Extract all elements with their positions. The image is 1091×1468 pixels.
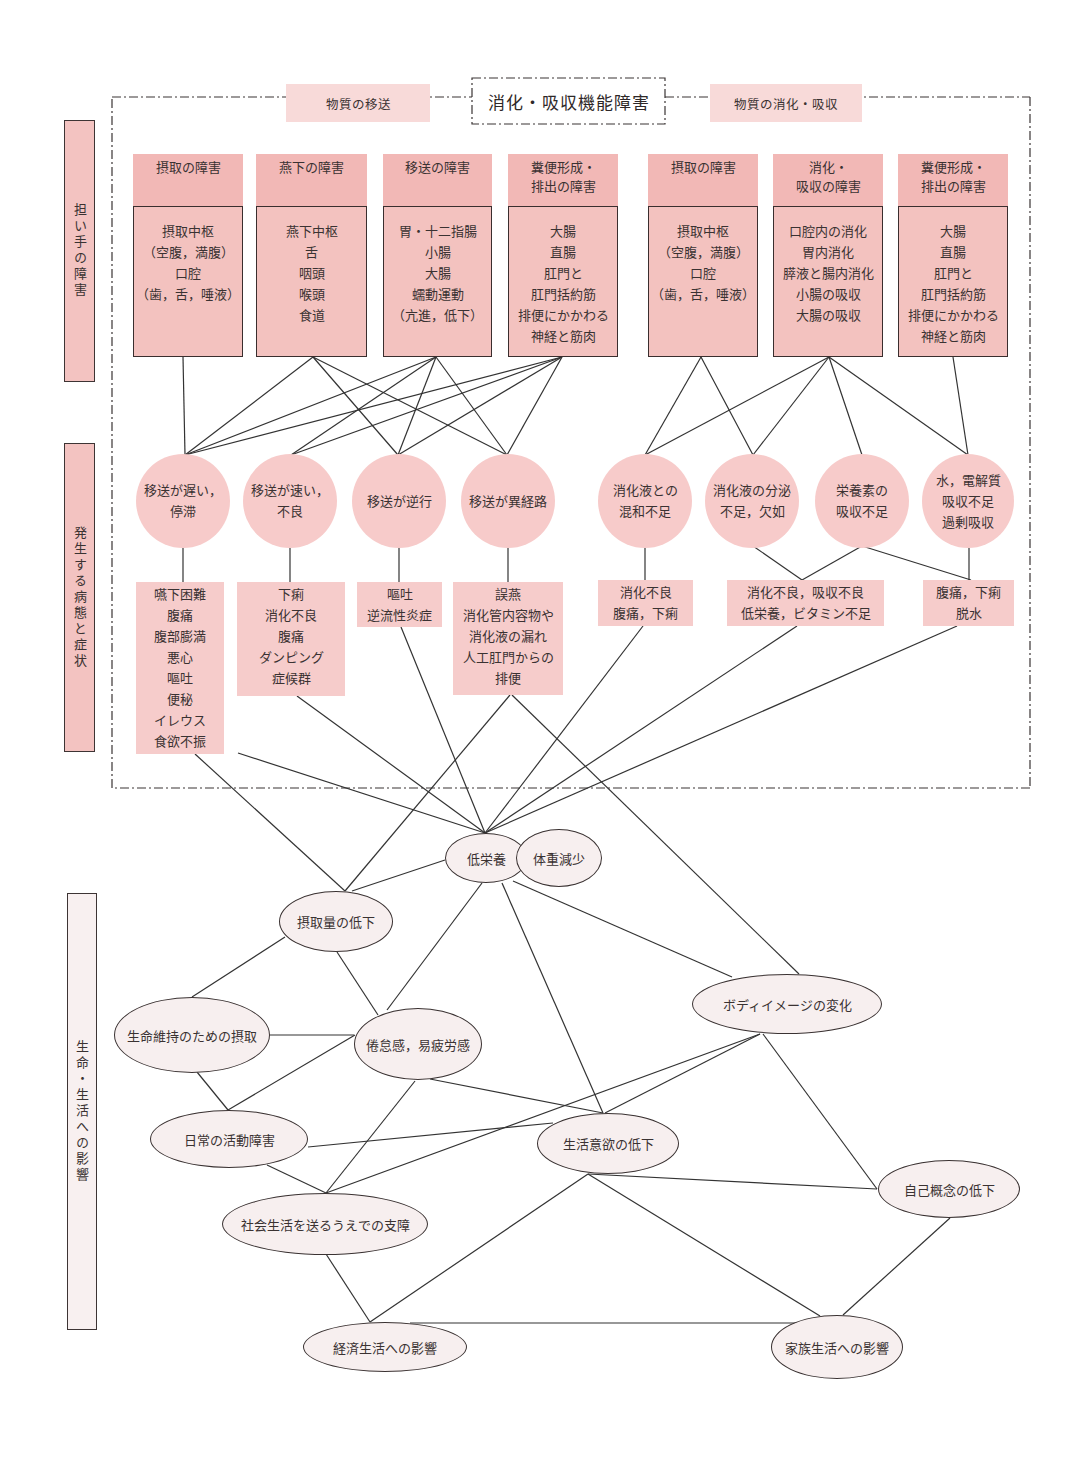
pathology-to-symptom-lines bbox=[183, 546, 971, 582]
pathology-circle: 栄養素の 吸収不足 bbox=[815, 454, 909, 548]
side-label-carriers: 担い手の障害 bbox=[64, 120, 95, 382]
pathology-circle: 移送が逆行 bbox=[352, 454, 446, 548]
symptom-box: 嘔吐 逆流性炎症 bbox=[357, 582, 442, 627]
carrier-body: 摂取中枢 （空腹，満腹） 口腔 （歯，舌，唾液） bbox=[648, 206, 758, 357]
carrier-to-pathology-lines bbox=[183, 357, 968, 455]
effect-economic-life: 経済生活への影響 bbox=[303, 1322, 467, 1372]
effect-daily-activity: 日常の活動障害 bbox=[150, 1110, 308, 1168]
effect-weight-loss: 体重減少 bbox=[516, 829, 602, 887]
pathology-circle: 移送が異経路 bbox=[461, 454, 555, 548]
side-label-text: 担い手の障害 bbox=[70, 203, 89, 299]
side-label-text: 発生する病態と症状 bbox=[70, 526, 89, 670]
carrier-header: 移送の障害 bbox=[383, 154, 492, 206]
effect-family-life: 家族生活への影響 bbox=[771, 1315, 903, 1379]
group-label-transport: 物質の移送 bbox=[286, 84, 430, 122]
symptom-box: 腹痛，下痢 脱水 bbox=[923, 580, 1014, 626]
effect-self-concept: 自己概念の低下 bbox=[878, 1160, 1020, 1218]
symptom-box: 嚥下困難 腹痛 腹部膨満 悪心 嘔吐 便秘 イレウス 食欲不振 bbox=[136, 582, 224, 754]
pathology-circle: 消化液との 混和不足 bbox=[598, 454, 692, 548]
carrier-header: 摂取の障害 bbox=[133, 154, 243, 206]
side-label-life-impact: 生命・生活への影響 bbox=[67, 893, 97, 1330]
carrier-header: 糞便形成・ 排出の障害 bbox=[898, 154, 1008, 206]
carrier-body: 口腔内の消化 胃内消化 膵液と腸内消化 小腸の吸収 大腸の吸収 bbox=[773, 206, 883, 357]
side-label-pathology: 発生する病態と症状 bbox=[64, 443, 95, 752]
pathology-circle: 移送が速い， 不良 bbox=[243, 454, 337, 548]
carrier-body: 摂取中枢 （空腹，満腹） 口腔 （歯，舌，唾液） bbox=[133, 206, 243, 357]
carrier-header: 燕下の障害 bbox=[256, 154, 367, 206]
symptom-box: 消化不良，吸収不良 低栄養，ビタミン不足 bbox=[727, 580, 884, 626]
effect-social-life: 社会生活を送るうえでの支障 bbox=[222, 1193, 428, 1255]
carrier-body: 大腸 直腸 肛門と 肛門括約筋 排便にかかわる 神経と筋肉 bbox=[508, 206, 618, 357]
carrier-body: 大腸 直腸 肛門と 肛門括約筋 排便にかかわる 神経と筋肉 bbox=[898, 206, 1008, 357]
symptom-box: 消化不良 腹痛，下痢 bbox=[598, 580, 693, 626]
carrier-header: 摂取の障害 bbox=[648, 154, 758, 206]
carrier-header: 消化・ 吸収の障害 bbox=[773, 154, 883, 206]
effect-malnutrition: 低栄養 bbox=[445, 833, 527, 883]
carrier-header: 糞便形成・ 排出の障害 bbox=[508, 154, 618, 206]
symptom-box: 誤燕 消化管内容物や 消化液の漏れ 人工肛門からの 排便 bbox=[453, 582, 563, 695]
effect-body-image: ボディイメージの変化 bbox=[692, 974, 882, 1034]
effect-fatigue: 倦怠感，易疲労感 bbox=[354, 1008, 482, 1080]
effect-motivation-decline: 生活意欲の低下 bbox=[537, 1113, 679, 1174]
pathology-circle: 水，電解質 吸収不足 過剰吸収 bbox=[922, 454, 1014, 548]
carrier-body: 胃・十二指腸 小腸 大腸 蠕動運動 （亢進，低下） bbox=[383, 206, 492, 357]
symptom-box: 下痢 消化不良 腹痛 ダンピング 症候群 bbox=[237, 582, 345, 696]
effect-intake-decline: 摂取量の低下 bbox=[279, 891, 393, 952]
carrier-body: 燕下中枢 舌 咽頭 喉頭 食道 bbox=[256, 206, 367, 357]
pathology-circle: 移送が遅い， 停滞 bbox=[136, 454, 230, 548]
effect-intake-for-life: 生命維持のための摂取 bbox=[114, 997, 270, 1073]
pathology-circle: 消化液の分泌 不足，欠如 bbox=[705, 454, 799, 548]
diagram-title: 消化・吸収機能障害 bbox=[472, 78, 665, 124]
group-label-digestion: 物質の消化・吸収 bbox=[710, 84, 862, 122]
side-label-text: 生命・生活への影響 bbox=[73, 1040, 92, 1184]
